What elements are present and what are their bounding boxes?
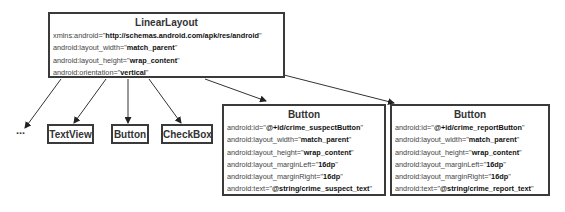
arrow-to-checkbox (149, 79, 181, 123)
node-attr: android:id="@+id/crime_suspectButton" (224, 122, 384, 134)
arrow-to-suspect-button (205, 79, 266, 101)
button-node: Button (111, 124, 149, 144)
arrow-to-textview (74, 79, 106, 123)
node-attr: android:id="@+id/crime_reportButton" (392, 122, 548, 134)
suspect-button-node: Button android:id="@+id/crime_suspectBut… (222, 104, 386, 196)
node-attr: android:layout_width="match_parent" (224, 134, 384, 146)
ellipsis-node: ... (16, 124, 25, 136)
linear-layout-node: LinearLayout xmlns:android="http://schem… (48, 12, 285, 78)
node-title: LinearLayout (50, 17, 283, 28)
node-attr: android:text="@string/crime_report_text" (392, 183, 548, 195)
arrow-to-report-button (284, 75, 394, 103)
node-attr: android:layout_marginRight="16dp" (224, 171, 384, 183)
node-attr: xmlns:android="http://schemas.android.co… (50, 30, 283, 42)
node-title: Button (392, 109, 548, 120)
arrow-to-ellipsis (25, 79, 61, 128)
checkbox-node: CheckBox (161, 124, 213, 144)
node-attr: android:layout_height="wrap_content" (224, 147, 384, 159)
node-attr: android:layout_height="wrap_content" (50, 55, 283, 67)
report-button-node: Button android:id="@+id/crime_reportButt… (390, 104, 550, 196)
node-attr: android:layout_marginRight="16dp" (392, 171, 548, 183)
node-attr: android:layout_width="match_parent" (392, 134, 548, 146)
node-attr: android:layout_marginLeft="16dp" (224, 159, 384, 171)
node-title: Button (224, 109, 384, 120)
node-attr: android:layout_height="wrap_content" (392, 147, 548, 159)
textview-node: TextView (47, 124, 94, 144)
node-attr: android:orientation="vertical" (50, 67, 283, 79)
node-attr: android:text="@string/crime_suspect_text… (224, 183, 384, 195)
node-attr: android:layout_width="match_parent" (50, 42, 283, 54)
node-attr: android:layout_marginLeft="16dp" (392, 159, 548, 171)
